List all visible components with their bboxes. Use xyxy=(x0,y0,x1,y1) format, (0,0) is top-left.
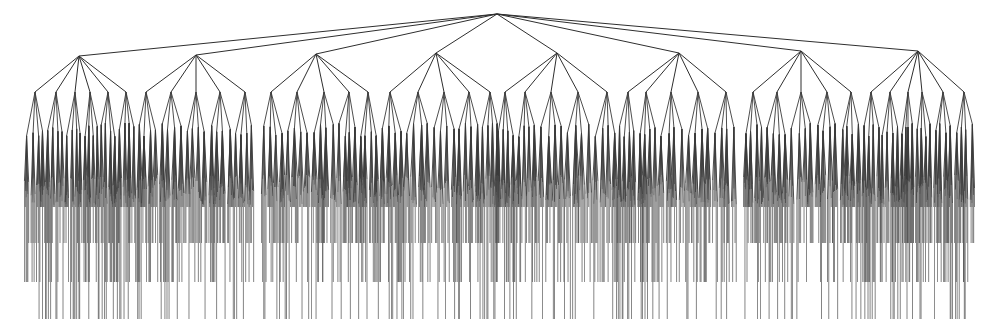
tree-edge xyxy=(646,53,679,92)
tree-edge xyxy=(297,54,316,92)
tree-edge xyxy=(35,92,39,136)
tree-edge xyxy=(390,92,401,131)
tree-edge xyxy=(79,56,126,92)
tree-edge xyxy=(390,92,395,133)
tree-edge xyxy=(271,92,282,133)
tree-edge xyxy=(35,56,79,92)
tree-edge xyxy=(753,92,762,127)
tree-edge xyxy=(497,14,918,51)
tree-edge xyxy=(270,92,271,127)
tree-diagram xyxy=(0,0,990,331)
tree-edge xyxy=(390,53,436,92)
tree-edge xyxy=(349,92,355,127)
tree-edge xyxy=(603,92,607,128)
tree-edge xyxy=(679,53,698,92)
tree-edge xyxy=(126,92,129,123)
tree-edge xyxy=(146,92,155,130)
tree-edge xyxy=(35,92,42,131)
tree-edge xyxy=(698,92,708,128)
tree-edge xyxy=(89,92,90,126)
tree-edge xyxy=(53,92,56,128)
tree-edge xyxy=(551,92,555,125)
tree-edge xyxy=(108,92,115,136)
tree-edge xyxy=(436,53,444,92)
tree-edge xyxy=(465,92,469,123)
tree-edge xyxy=(368,92,371,132)
tree-edge xyxy=(646,92,655,128)
tree-edge xyxy=(671,53,679,92)
tree-edge xyxy=(316,14,497,54)
tree-edge xyxy=(726,92,727,129)
tree-edge xyxy=(726,92,734,127)
tree-edge xyxy=(436,14,497,53)
tree-edge xyxy=(801,92,805,128)
tree-edge xyxy=(722,92,726,128)
tree-edge xyxy=(368,92,376,136)
tree-edge xyxy=(908,51,918,92)
tree-edge xyxy=(241,92,245,135)
tree-edge xyxy=(595,92,607,136)
tree-edge xyxy=(316,54,349,92)
tree-edge xyxy=(171,55,196,92)
tree-edge xyxy=(196,55,245,92)
tree-edge xyxy=(321,92,324,125)
tree-edge xyxy=(236,92,245,134)
tree-edge xyxy=(316,54,324,92)
tree-edge xyxy=(271,92,276,135)
tree-edge xyxy=(628,53,679,92)
tree-edge xyxy=(557,53,578,92)
tree-edge xyxy=(196,55,220,92)
tree-edge xyxy=(361,92,368,136)
tree-edge xyxy=(436,53,469,92)
tree-edge xyxy=(777,51,801,92)
tree-edge xyxy=(557,53,607,92)
tree-edge xyxy=(146,55,196,92)
tree-edge xyxy=(316,54,368,92)
tree-edge xyxy=(801,51,827,92)
tree-edge xyxy=(679,53,726,92)
upper-edges xyxy=(35,14,964,92)
tree-edge xyxy=(187,92,196,131)
tree-edge xyxy=(551,92,561,126)
tree-edge xyxy=(497,14,679,53)
tree-edge xyxy=(48,92,56,130)
tree-edge xyxy=(271,54,316,92)
tree-edge xyxy=(407,92,418,133)
tree-edge xyxy=(126,92,134,127)
tree-diagram-svg xyxy=(0,0,990,331)
tree-edge xyxy=(146,92,151,130)
tree-edge xyxy=(264,92,271,126)
tree-edge xyxy=(646,92,650,129)
tree-edge xyxy=(314,92,324,133)
tree-edge xyxy=(801,51,851,92)
tree-edge xyxy=(505,53,557,92)
tree-edge xyxy=(79,56,108,92)
tree-edge xyxy=(79,14,497,56)
tree-edge xyxy=(497,14,801,51)
tree-edge xyxy=(436,53,490,92)
leaf-edges xyxy=(24,175,974,319)
tree-edge xyxy=(715,92,726,133)
tree-edge xyxy=(192,92,196,129)
tree-edge xyxy=(525,92,529,127)
tree-edge xyxy=(753,92,757,125)
tree-edge xyxy=(525,92,534,125)
tree-edge xyxy=(79,56,90,92)
tree-edge xyxy=(459,92,469,129)
tree-edge xyxy=(698,92,702,129)
tree-edge xyxy=(753,51,801,92)
tree-edge xyxy=(414,92,418,124)
tree-edge xyxy=(908,92,912,124)
tree-edge xyxy=(918,51,964,92)
tree-edge xyxy=(365,92,368,136)
tree-edge xyxy=(196,14,497,55)
tree-edge xyxy=(418,53,436,92)
